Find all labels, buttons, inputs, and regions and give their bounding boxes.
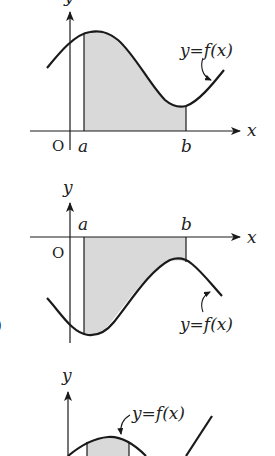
a-label: a bbox=[78, 136, 88, 156]
x-axis-label: x bbox=[247, 120, 257, 140]
curve-label: y=f(x) bbox=[179, 314, 233, 334]
origin-label: O bbox=[52, 137, 64, 155]
b-label: b bbox=[181, 136, 192, 156]
origin-label: O bbox=[52, 244, 64, 262]
label-pointer bbox=[202, 58, 211, 80]
curve-right-branch bbox=[186, 416, 212, 456]
b-label: b bbox=[181, 214, 192, 234]
y-axis-label: y bbox=[63, 0, 74, 6]
partial-paren: ) bbox=[0, 316, 2, 334]
curve-label: y=f(x) bbox=[179, 40, 233, 60]
a-label: a bbox=[78, 214, 88, 234]
y-axis-label: y bbox=[61, 365, 72, 385]
y-axis-label: y bbox=[62, 177, 73, 197]
shaded-area bbox=[84, 237, 186, 335]
curve-label: y=f(x) bbox=[131, 403, 185, 423]
x-axis-label: x bbox=[247, 227, 257, 247]
graph-3: y=f(x) y bbox=[61, 365, 212, 456]
label-pointer bbox=[202, 292, 210, 312]
shaded-area bbox=[84, 31, 186, 131]
graph-1: y=f(x) x y O a b bbox=[30, 0, 257, 156]
figure-canvas: y=f(x) x y O a b y=f(x) x y O a b ) y=f(… bbox=[0, 0, 275, 456]
label-pointer bbox=[121, 415, 130, 434]
graph-2: y=f(x) x y O a b bbox=[30, 177, 257, 343]
